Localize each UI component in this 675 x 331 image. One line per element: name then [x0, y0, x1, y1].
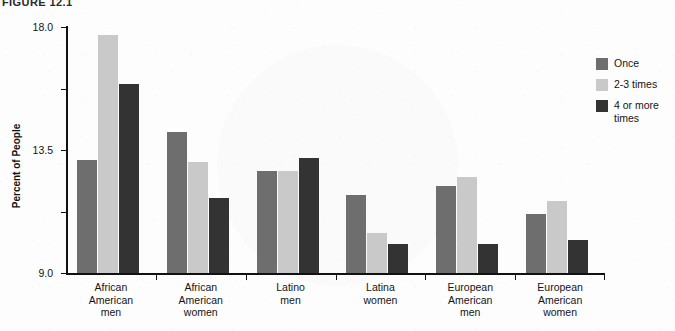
bar	[478, 244, 498, 273]
y-tick-mark: 18.0	[61, 27, 67, 28]
x-axis-category-line: men	[246, 294, 336, 307]
bar	[98, 35, 118, 273]
bar	[367, 233, 387, 273]
bar-group	[526, 27, 588, 273]
legend-item[interactable]: 2-3 times	[596, 78, 674, 91]
x-axis-category-label: AfricanAmericanmen	[66, 281, 156, 319]
x-axis-category-label: Latinomen	[246, 281, 336, 306]
y-axis-title: Percent of People	[11, 123, 22, 207]
x-axis-category-label: EuropeanAmericanwomen	[515, 281, 605, 319]
x-axis-category-line: American	[425, 294, 515, 307]
x-axis-category-line: Latina	[336, 281, 426, 294]
bar	[188, 162, 208, 273]
chart-legend: Once2-3 times4 or more times	[596, 57, 674, 132]
x-axis-category-line: women	[336, 294, 426, 307]
bar	[436, 186, 456, 273]
legend-label: 2-3 times	[614, 78, 657, 91]
x-axis-category-line: Latino	[246, 281, 336, 294]
x-tick-mark	[156, 274, 157, 280]
x-axis-category-line: European	[425, 281, 515, 294]
bar	[257, 171, 277, 274]
x-axis-category-line: American	[156, 294, 246, 307]
x-axis-category-line: women	[156, 306, 246, 319]
legend-swatch	[596, 79, 608, 91]
x-axis-category-line: men	[425, 306, 515, 319]
x-axis-category-line: European	[515, 281, 605, 294]
x-tick-mark	[336, 274, 337, 280]
x-axis-category-line: men	[66, 306, 156, 319]
legend-label: 4 or more times	[614, 99, 674, 124]
bar	[299, 158, 319, 273]
bar	[346, 195, 366, 273]
x-tick-mark	[425, 274, 426, 280]
x-axis-category-line: women	[515, 306, 605, 319]
y-tick-mark: 9.0	[61, 150, 67, 151]
x-tick-mark	[246, 274, 247, 280]
plot-area: 04.59.013.518.0	[66, 27, 605, 273]
legend-swatch	[596, 100, 608, 112]
y-tick-label: 18.0	[33, 21, 53, 33]
x-axis-category-line: American	[66, 294, 156, 307]
bar	[568, 240, 588, 273]
figure-container: FIGURE 12.1 Percent of People 04.59.013.…	[0, 0, 675, 331]
y-tick-mark: 13.5	[61, 89, 67, 90]
bar-group	[77, 27, 139, 273]
bar	[77, 160, 97, 273]
bar	[547, 201, 567, 273]
x-axis-category-line: African	[156, 281, 246, 294]
bar-group	[167, 27, 229, 273]
x-axis-category-label: EuropeanAmericanmen	[425, 281, 515, 319]
bar	[209, 198, 229, 273]
legend-item[interactable]: Once	[596, 57, 674, 70]
bar	[388, 244, 408, 273]
x-tick-mark	[604, 274, 605, 280]
y-tick-mark: 4.5	[61, 212, 67, 213]
y-tick-mark: 0	[61, 273, 67, 274]
bar	[167, 132, 187, 273]
bar-group	[257, 27, 319, 273]
bar-group	[346, 27, 408, 273]
x-axis-category-label: AfricanAmericanwomen	[156, 281, 246, 319]
bar-group	[436, 27, 498, 273]
bar	[457, 177, 477, 273]
bar	[526, 214, 546, 273]
x-axis-category-line: American	[515, 294, 605, 307]
legend-label: Once	[614, 57, 639, 70]
bar	[119, 84, 139, 273]
x-axis-category-line: African	[66, 281, 156, 294]
x-tick-mark	[515, 274, 516, 280]
figure-caption: FIGURE 12.1	[2, 0, 72, 8]
y-tick-label: 9.0	[38, 267, 53, 279]
bar	[278, 171, 298, 274]
legend-swatch	[596, 58, 608, 70]
y-tick-label: 13.5	[33, 144, 53, 156]
legend-item[interactable]: 4 or more times	[596, 99, 674, 124]
x-axis-category-label: Latinawomen	[336, 281, 426, 306]
